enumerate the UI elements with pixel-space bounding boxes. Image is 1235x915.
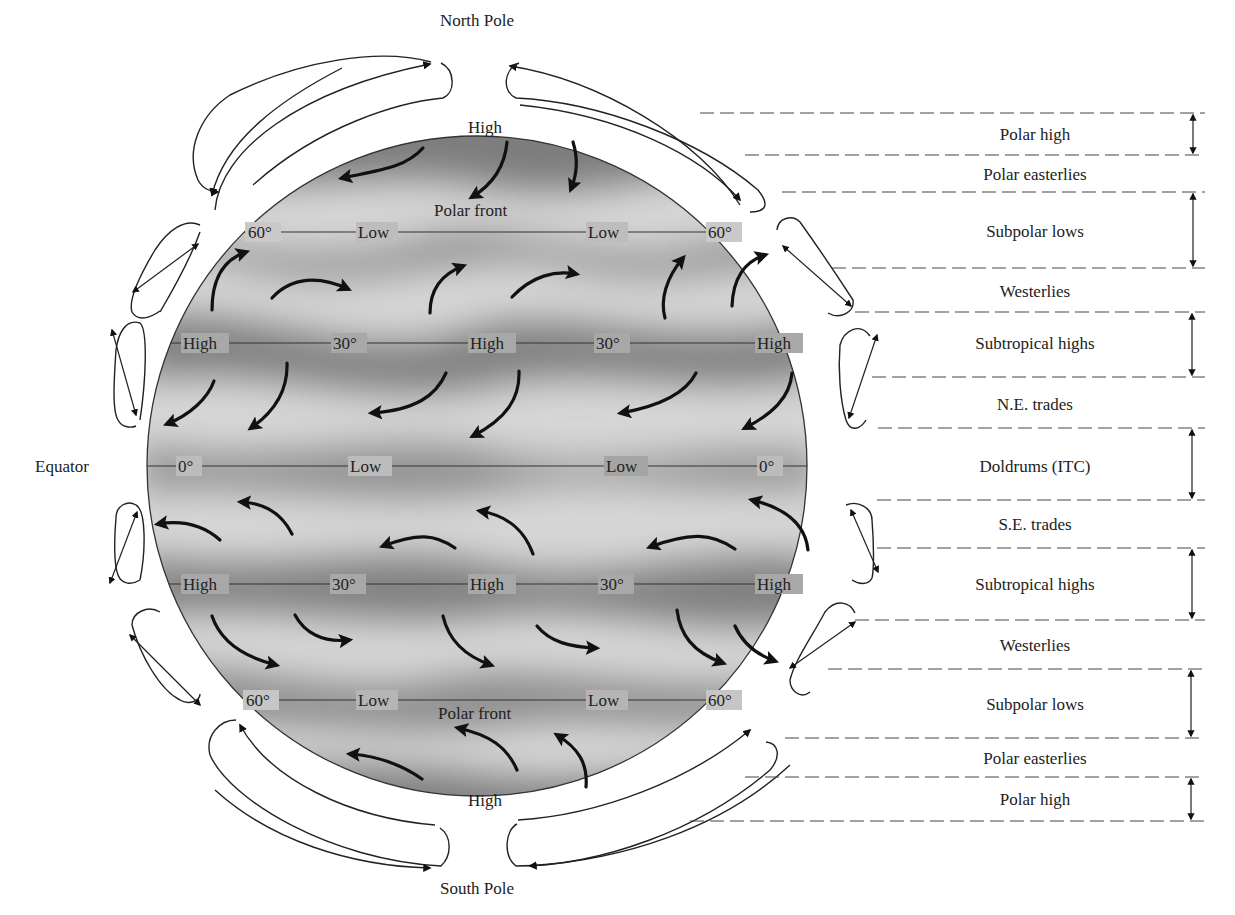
band-label-doldrums: Doldrums (ITC) <box>980 457 1091 476</box>
hadley-cell-north-left-b <box>140 323 145 420</box>
lat-60n-low-left: Low <box>358 223 390 242</box>
south-pole-label: South Pole <box>440 879 514 898</box>
north-polar-high-label: High <box>468 118 503 137</box>
lat-30s-high-left: High <box>183 575 218 594</box>
lat-30n-degree-left: 30° <box>333 334 357 353</box>
band-label-ne-trades: N.E. trades <box>997 395 1073 414</box>
equator-low-left: Low <box>350 457 382 476</box>
lat-30s-high-right: High <box>757 575 792 594</box>
lat-60n-low-right: Low <box>588 223 620 242</box>
ferrel-cell-north-right-arrow <box>783 246 851 306</box>
lat-60s-low-right: Low <box>588 691 620 710</box>
lat-60s-low-left: Low <box>358 691 390 710</box>
lat-60s-degree-left: 60° <box>246 691 270 710</box>
band-label-polar-high-south: Polar high <box>1000 790 1071 809</box>
lat-60n-degree-right: 60° <box>708 223 732 242</box>
lat-60n-degree-left: 60° <box>248 223 272 242</box>
lat-30n-high-right: High <box>757 334 792 353</box>
lat-30n-degree-right: 30° <box>596 334 620 353</box>
equator-degree-left: 0° <box>178 457 193 476</box>
hadley-cell-south-right-arrow <box>851 510 878 572</box>
band-label-polar-easterlies-south: Polar easterlies <box>983 749 1086 768</box>
lat-30n-high-left: High <box>183 334 218 353</box>
hadley-cell-north-left-arrow <box>112 330 136 415</box>
ferrel-cell-south-left-arrow <box>130 635 200 705</box>
hadley-cell-south-right <box>846 503 874 583</box>
band-label-polar-high-north: Polar high <box>1000 125 1071 144</box>
ferrel-cell-south-right-arrow <box>790 622 855 668</box>
ferrel-cell-north-left-arrow <box>133 244 198 292</box>
north-polar-front-label: Polar front <box>434 201 507 220</box>
band-label-westerlies-north: Westerlies <box>1000 282 1070 301</box>
lat-30n-high-center: High <box>470 334 505 353</box>
lat-60s-degree-right: 60° <box>708 691 732 710</box>
band-label-subpolar-lows-south: Subpolar lows <box>986 695 1084 714</box>
lat-30s-degree-left: 30° <box>332 575 356 594</box>
band-label-se-trades: S.E. trades <box>998 515 1071 534</box>
band-label-westerlies-south: Westerlies <box>1000 636 1070 655</box>
hadley-cell-north-left <box>114 322 140 427</box>
band-label-subpolar-lows-north: Subpolar lows <box>986 222 1084 241</box>
ferrel-cell-north-right <box>777 218 853 316</box>
polar-cell-north-left-outer <box>230 56 431 95</box>
south-polar-high-label: High <box>468 791 503 810</box>
north-pole-label: North Pole <box>440 11 514 30</box>
equator-label: Equator <box>35 457 89 476</box>
equator-low-right: Low <box>606 457 638 476</box>
band-label-polar-easterlies-north: Polar easterlies <box>983 165 1086 184</box>
atmospheric-circulation-diagram: 60° Low Low 60° High 30° High 30° High 0… <box>0 0 1235 915</box>
lat-30s-high-center: High <box>470 575 505 594</box>
band-label-subtropical-highs-south: Subtropical highs <box>975 575 1094 594</box>
polar-cell-south-left-outer <box>215 790 430 868</box>
lat-30s-degree-right: 30° <box>600 575 624 594</box>
hadley-cell-north-right <box>839 329 870 429</box>
ferrel-cell-south-right <box>790 603 855 695</box>
hadley-cell-south-left-b <box>136 505 144 580</box>
south-polar-front-label: Polar front <box>438 704 511 723</box>
band-label-subtropical-highs-north: Subtropical highs <box>975 334 1094 353</box>
equator-degree-right: 0° <box>759 457 774 476</box>
